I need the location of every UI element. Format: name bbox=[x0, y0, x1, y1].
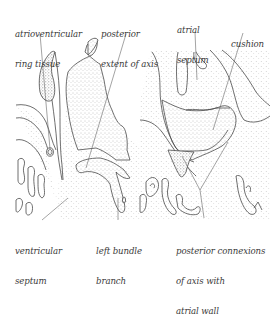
label-ventricular-septum: ventricular septum bbox=[15, 226, 62, 306]
label-atrioventricular-ring-tissue: atrioventricular ring tissue bbox=[15, 9, 82, 89]
label-left-bundle-branch: left bundle branch bbox=[96, 226, 142, 306]
label-cushion: cushion bbox=[231, 19, 264, 69]
label-posterior-connexions: posterior connexions of axis with atrial… bbox=[176, 226, 265, 318]
label-atrial-septum: atrial septum bbox=[177, 5, 209, 85]
label-posterior-extent-of-axis: posterior extent of axis bbox=[101, 9, 158, 89]
